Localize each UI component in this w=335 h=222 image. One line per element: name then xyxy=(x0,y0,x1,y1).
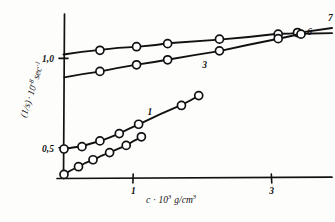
y-title-units-exp: -1 xyxy=(33,60,41,67)
x-title-c: c xyxy=(146,195,151,205)
x-tick-label-1: 1 xyxy=(131,186,136,196)
series-label-6: 6 xyxy=(307,27,312,37)
y-title-frac: (1/s) xyxy=(18,99,34,119)
data-point-marker xyxy=(215,47,223,55)
data-point-marker xyxy=(164,40,172,48)
series-3 xyxy=(60,92,203,153)
data-point-marker xyxy=(75,163,83,171)
data-point-marker xyxy=(133,43,141,51)
data-point-marker xyxy=(60,170,68,178)
series-label-7: 7 xyxy=(328,13,334,23)
x-title-units-exp: 3 xyxy=(192,193,197,200)
data-point-marker xyxy=(106,149,114,157)
data-point-marker xyxy=(133,61,141,69)
x-title-dot: · xyxy=(153,195,155,205)
tick-marks-group xyxy=(59,58,272,183)
data-point-marker xyxy=(96,67,104,75)
data-point-marker xyxy=(60,145,68,153)
series-7 xyxy=(64,28,332,54)
series-layer xyxy=(60,28,332,178)
y-axis-title: (1/s)·10-8sec-1 xyxy=(16,60,46,119)
x-axis-title: c·103g/cm3 xyxy=(146,193,197,205)
series-label-1: 1 xyxy=(148,107,153,117)
x-tick-label-3: 3 xyxy=(268,186,274,196)
data-point-marker xyxy=(195,92,203,100)
data-point-marker xyxy=(96,46,104,54)
data-point-marker xyxy=(115,130,123,138)
svg-text:(1/s)·10-8sec-1: (1/s)·10-8sec-1 xyxy=(16,60,46,119)
series-label-3: 3 xyxy=(201,60,207,70)
y-tick-label-0-5: 0,5 xyxy=(42,144,54,154)
data-point-marker xyxy=(215,35,223,43)
data-point-marker xyxy=(164,56,172,64)
series-6 xyxy=(64,30,332,77)
data-point-marker xyxy=(297,30,305,38)
x-title-ten: 10 xyxy=(159,195,169,205)
x-title-units: g/cm xyxy=(174,195,193,205)
data-point-marker xyxy=(135,120,143,128)
x-title-exp: 3 xyxy=(167,193,172,200)
data-point-marker xyxy=(274,35,282,43)
data-point-marker xyxy=(137,133,145,141)
data-point-marker xyxy=(89,156,97,164)
y-tick-label-1-0: 1,0 xyxy=(42,54,54,64)
data-point-marker xyxy=(122,141,130,149)
chart-figure: 130,51,0 7631 (1/s)·10-8sec-1 c·103g/cm3 xyxy=(0,0,335,222)
data-point-marker xyxy=(96,137,104,145)
chart-svg: 130,51,0 7631 (1/s)·10-8sec-1 c·103g/cm3 xyxy=(0,0,335,222)
series-labels-group: 7631 xyxy=(148,13,334,117)
data-point-marker xyxy=(78,143,86,151)
x-axis-line xyxy=(57,177,332,178)
data-point-marker xyxy=(177,101,185,109)
svg-text:c·103g/cm3: c·103g/cm3 xyxy=(146,193,197,205)
